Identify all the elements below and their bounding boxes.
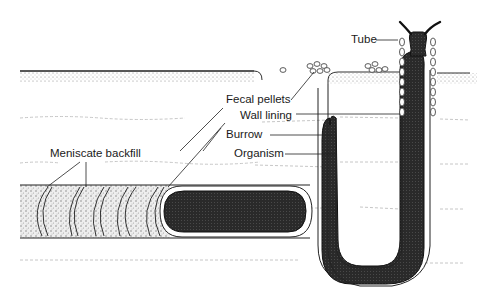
label-wall-lining: Wall lining [240,110,292,122]
sediment-surface-right [437,73,477,84]
horizontal-burrow [20,185,312,238]
label-meniscate-backfill: Meniscate backfill [50,148,141,160]
fecal-pellets [280,62,388,74]
sediment-surface-left [20,71,262,82]
sediment-surface-middle [328,72,403,84]
label-fecal-pellets: Fecal pellets [226,94,291,106]
u-shaped-burrow [261,52,430,286]
organism-u [322,52,424,284]
organism-horizontal [164,191,306,232]
label-burrow: Burrow [226,129,262,141]
label-organism: Organism [234,148,284,160]
leader-lines [47,40,400,187]
diagram-canvas [0,0,491,289]
burrow-diagram: Tube Fecal pellets Wall lining Burrow Or… [0,0,491,289]
label-tube: Tube [351,34,377,46]
